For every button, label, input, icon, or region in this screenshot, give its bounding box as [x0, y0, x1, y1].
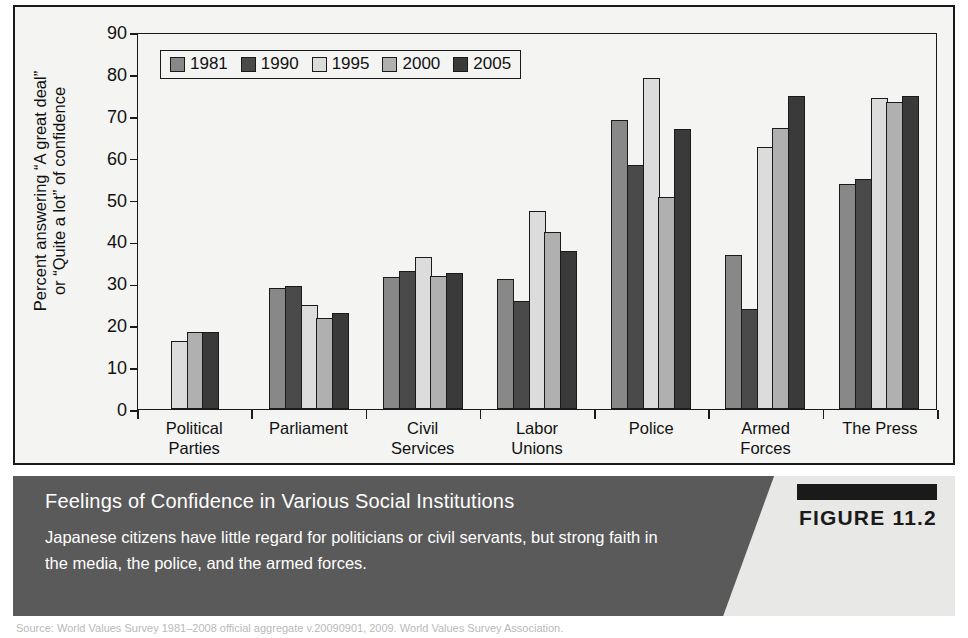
bar[interactable]: [415, 257, 432, 409]
x-axis-tick: [137, 410, 139, 419]
bar[interactable]: [560, 251, 577, 409]
bar[interactable]: [855, 179, 872, 409]
bar[interactable]: [430, 276, 447, 409]
legend-item[interactable]: 1995: [312, 54, 370, 74]
y-axis-tick-label: 60: [107, 149, 127, 170]
bar[interactable]: [544, 232, 561, 409]
x-axis-label-line: Civil: [366, 419, 480, 439]
bar[interactable]: [627, 165, 644, 409]
bar[interactable]: [902, 96, 919, 409]
bar[interactable]: [332, 313, 349, 409]
y-axis-title-line2: or “Quite a lot” of confidence: [50, 87, 69, 295]
bar[interactable]: [741, 309, 758, 409]
caption-band: FIGURE 11.2 Feelings of Confidence in Va…: [13, 476, 955, 616]
bar[interactable]: [399, 271, 416, 409]
y-axis-title-line1: Percent answering “A great deal”: [31, 71, 50, 311]
figure-tab-bar: [797, 484, 937, 500]
bar[interactable]: [839, 184, 856, 409]
source-line: Source: World Values Survey 1981–2008 of…: [16, 622, 952, 634]
x-axis-tick: [480, 410, 482, 419]
y-axis-tick-label: 0: [117, 400, 127, 421]
bar-group: [366, 34, 480, 409]
bar-group: [594, 34, 708, 409]
bar[interactable]: [513, 301, 530, 409]
bar[interactable]: [497, 279, 514, 409]
plot-area: 0102030405060708090 19811990199520002005: [137, 33, 937, 410]
x-axis-label-line: Services: [366, 439, 480, 459]
bar[interactable]: [316, 318, 333, 409]
bar[interactable]: [202, 332, 219, 409]
y-axis-tick-mark: [130, 285, 138, 287]
legend-swatch: [453, 57, 468, 72]
y-axis-tick-label: 50: [107, 191, 127, 212]
legend-label: 1990: [261, 54, 299, 74]
y-axis-tick-label: 80: [107, 65, 127, 86]
bar[interactable]: [674, 129, 691, 409]
legend-item[interactable]: 2005: [453, 54, 511, 74]
y-axis-tick-label: 20: [107, 316, 127, 337]
legend-item[interactable]: 2000: [382, 54, 440, 74]
bar[interactable]: [757, 147, 774, 409]
legend-swatch: [382, 57, 397, 72]
bar[interactable]: [725, 255, 742, 409]
x-axis-label-line: Police: [594, 419, 708, 439]
y-axis-tick-label: 10: [107, 358, 127, 379]
legend-item[interactable]: 1981: [170, 54, 228, 74]
x-axis-label: Police: [594, 419, 708, 467]
x-axis-label: ArmedForces: [708, 419, 822, 467]
y-axis-tick-mark: [130, 368, 138, 370]
bar[interactable]: [285, 286, 302, 409]
legend-label: 2000: [402, 54, 440, 74]
x-axis-label-line: Armed: [708, 419, 822, 439]
bar[interactable]: [886, 102, 903, 409]
y-axis-tick-mark: [130, 243, 138, 245]
x-axis-label-line: The Press: [823, 419, 937, 439]
caption-title: Feelings of Confidence in Various Social…: [45, 490, 514, 513]
bar[interactable]: [611, 120, 628, 409]
bar[interactable]: [446, 273, 463, 409]
legend-swatch: [241, 57, 256, 72]
y-axis-tick-mark: [130, 159, 138, 161]
x-axis-label: CivilServices: [366, 419, 480, 467]
bar[interactable]: [383, 277, 400, 409]
bar[interactable]: [658, 197, 675, 409]
bar[interactable]: [788, 96, 805, 409]
x-axis-tick: [594, 410, 596, 419]
legend-swatch: [170, 57, 185, 72]
x-axis-tick: [251, 410, 253, 419]
bar[interactable]: [171, 341, 188, 409]
y-axis-tick-mark: [130, 326, 138, 328]
legend-label: 1981: [190, 54, 228, 74]
bar[interactable]: [772, 128, 789, 409]
legend-swatch: [312, 57, 327, 72]
y-axis-tick-label: 70: [107, 107, 127, 128]
x-axis-label: PoliticalParties: [137, 419, 251, 467]
x-axis-tick: [823, 410, 825, 419]
x-axis-label-line: Unions: [480, 439, 594, 459]
y-axis-tick-mark: [130, 75, 138, 77]
y-axis-title: Percent answering “A great deal” or “Qui…: [24, 0, 76, 386]
bar-group: [480, 34, 594, 409]
caption-body: Japanese citizens have little regard for…: [45, 525, 665, 576]
x-axis-label-line: Labor: [480, 419, 594, 439]
bar-group: [822, 34, 936, 409]
bar[interactable]: [187, 332, 204, 409]
bar[interactable]: [643, 78, 660, 409]
legend-label: 1995: [332, 54, 370, 74]
bar[interactable]: [871, 98, 888, 409]
x-axis-label: The Press: [823, 419, 937, 467]
bar-group: [252, 34, 366, 409]
x-axis-label-line: Forces: [708, 439, 822, 459]
y-axis-tick-label: 30: [107, 274, 127, 295]
x-axis-label: LaborUnions: [480, 419, 594, 467]
bar[interactable]: [529, 211, 546, 409]
bar[interactable]: [301, 305, 318, 409]
chart-legend: 19811990199520002005: [160, 50, 521, 79]
bar-group: [708, 34, 822, 409]
legend-item[interactable]: 1990: [241, 54, 299, 74]
x-axis-tick: [937, 410, 939, 419]
bar[interactable]: [269, 288, 286, 409]
y-axis-tick-label: 40: [107, 232, 127, 253]
x-axis-label: Parliament: [251, 419, 365, 467]
legend-label: 2005: [473, 54, 511, 74]
